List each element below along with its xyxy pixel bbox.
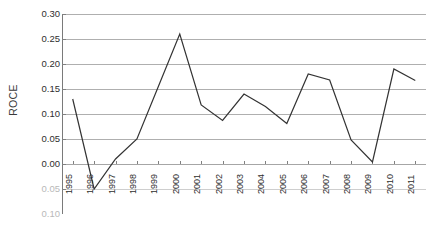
y-axis-tick-label: 0.30	[16, 9, 60, 19]
y-axis-tick-label: 0.20	[16, 59, 60, 69]
y-axis-tick-label: 0.00	[16, 159, 60, 169]
y-axis-tick-label: 0.10	[16, 209, 60, 219]
y-axis-tick-label: 0.05	[16, 184, 60, 194]
y-axis-tick-labels: 0.300.250.200.150.100.050.000.050.10	[0, 0, 60, 229]
y-axis-tick-label: 0.15	[16, 84, 60, 94]
x-axis-tick-label: 2011	[398, 160, 432, 194]
y-axis-tick-label: 0.05	[16, 134, 60, 144]
roce-line-chart: ROCE 0.300.250.200.150.100.050.000.050.1…	[0, 0, 433, 229]
y-axis-tick-label: 0.10	[16, 109, 60, 119]
x-axis-tick-labels: 1995199619971998199920002001200220032004…	[62, 160, 426, 208]
y-axis-tick-label: 0.25	[16, 34, 60, 44]
